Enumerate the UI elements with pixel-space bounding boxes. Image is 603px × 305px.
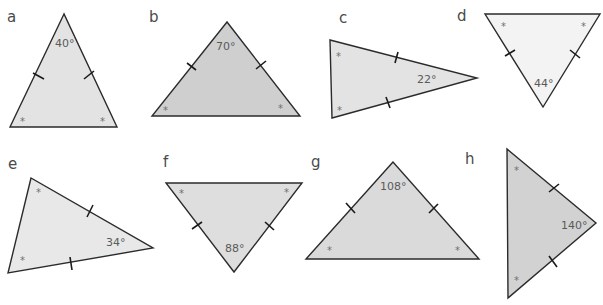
triangle-e-angle: 34° bbox=[106, 236, 126, 249]
triangle-g: g 108° * * bbox=[306, 153, 479, 259]
equal-angle-star: * bbox=[36, 187, 41, 198]
triangle-h: h 140° * * bbox=[465, 149, 596, 298]
triangle-h-angle: 140° bbox=[561, 219, 588, 232]
triangle-d-angle: 44° bbox=[534, 77, 554, 90]
triangle-f-angle: 88° bbox=[225, 242, 245, 255]
equal-angle-star: * bbox=[179, 188, 184, 199]
triangle-d-label: d bbox=[457, 7, 467, 25]
triangle-c-label: c bbox=[339, 9, 347, 27]
triangle-h-label: h bbox=[465, 150, 475, 168]
equal-angle-star: * bbox=[20, 255, 25, 266]
triangle-a: a 40° * * bbox=[7, 8, 117, 127]
triangle-b-label: b bbox=[149, 8, 159, 26]
equal-angle-star: * bbox=[337, 105, 342, 116]
equal-angle-star: * bbox=[514, 275, 519, 286]
triangle-e: e 34° * * bbox=[8, 155, 153, 273]
equal-angle-star: * bbox=[163, 105, 168, 116]
equal-angle-star: * bbox=[514, 165, 519, 176]
triangle-c-shape bbox=[330, 40, 477, 118]
triangle-f: f 88° * * bbox=[163, 153, 302, 272]
isosceles-triangles-diagram: a 40° * * b 70° * * c 22° * * d 44° * * bbox=[0, 0, 603, 305]
triangle-b: b 70° * * bbox=[149, 8, 300, 116]
triangle-f-label: f bbox=[163, 153, 169, 171]
triangle-c-angle: 22° bbox=[417, 73, 437, 86]
triangle-g-angle: 108° bbox=[380, 180, 407, 193]
triangle-f-shape bbox=[166, 183, 302, 272]
equal-angle-star: * bbox=[501, 21, 506, 32]
equal-angle-star: * bbox=[336, 51, 341, 62]
triangle-a-angle: 40° bbox=[55, 37, 75, 50]
equal-angle-star: * bbox=[327, 245, 332, 256]
triangle-e-label: e bbox=[8, 155, 17, 173]
triangle-b-angle: 70° bbox=[216, 40, 236, 53]
equal-angle-star: * bbox=[278, 103, 283, 114]
equal-angle-star: * bbox=[20, 116, 25, 127]
triangle-e-shape bbox=[8, 178, 153, 273]
triangle-a-label: a bbox=[7, 8, 16, 26]
triangle-c: c 22° * * bbox=[330, 9, 477, 118]
triangle-g-label: g bbox=[311, 153, 321, 171]
equal-angle-star: * bbox=[284, 187, 289, 198]
triangle-a-shape bbox=[10, 14, 117, 127]
equal-angle-star: * bbox=[455, 245, 460, 256]
equal-angle-star: * bbox=[581, 21, 586, 32]
equal-angle-star: * bbox=[100, 116, 105, 127]
triangle-d: d 44° * * bbox=[457, 7, 600, 107]
triangle-b-shape bbox=[152, 22, 300, 116]
